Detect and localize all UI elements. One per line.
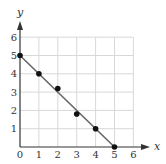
x-axis-arrow-icon [141, 144, 150, 150]
data-point [93, 126, 99, 132]
y-tick-label: 3 [11, 87, 17, 98]
y-axis-label: y [16, 6, 24, 19]
y-tick-label: 5 [11, 50, 17, 61]
x-tick-label: 4 [92, 149, 98, 160]
axes: x y [16, 6, 161, 153]
y-tick-label: 2 [11, 105, 17, 116]
data-point [55, 86, 61, 92]
y-axis-arrow-icon [17, 21, 23, 30]
x-axis-label: x [154, 140, 161, 153]
y-tick-label: 6 [11, 32, 17, 43]
x-tick-label: 3 [74, 149, 80, 160]
x-tick-label: 5 [111, 149, 117, 160]
data-series [17, 53, 117, 150]
y-tick-labels: 123456 [11, 32, 17, 135]
y-tick-label: 4 [11, 68, 17, 79]
fitted-line [20, 56, 115, 148]
data-point [74, 111, 80, 117]
grid-lines [20, 37, 133, 147]
data-point [36, 71, 42, 77]
x-tick-label: 2 [55, 149, 61, 160]
scatter-chart: x y 0123456 123456 [0, 0, 166, 164]
x-tick-label: 1 [36, 149, 42, 160]
y-tick-label: 1 [11, 123, 17, 134]
data-point [112, 144, 118, 150]
data-point [17, 53, 23, 59]
x-tick-label: 6 [130, 149, 136, 160]
x-tick-labels: 0123456 [17, 149, 137, 160]
x-tick-label: 0 [17, 149, 23, 160]
